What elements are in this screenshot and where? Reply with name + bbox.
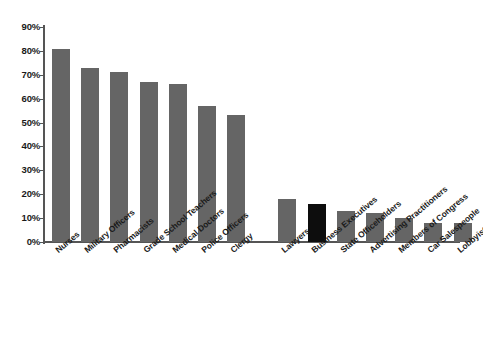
bar-military-officers <box>81 68 99 242</box>
y-axis-tick-label: 90% <box>2 22 40 32</box>
y-axis-tick-label: 10% <box>2 213 40 223</box>
bar-nurses <box>52 49 70 243</box>
y-axis-tick-label: 40% <box>2 142 40 152</box>
y-axis-tick-label: 30% <box>2 166 40 176</box>
y-axis-tick-label: 50% <box>2 118 40 128</box>
y-axis-tick-label: 60% <box>2 94 40 104</box>
y-axis-tick-label: 70% <box>2 70 40 80</box>
bar-chart: 90%80%70%60%50%40%30%20%10%0% NursesMili… <box>0 0 483 353</box>
x-axis-category-labels: NursesMilitary OfficersPharmacistsGrade … <box>0 244 483 353</box>
y-axis-tick-label: 20% <box>2 189 40 199</box>
y-axis-tick-label: 80% <box>2 46 40 56</box>
